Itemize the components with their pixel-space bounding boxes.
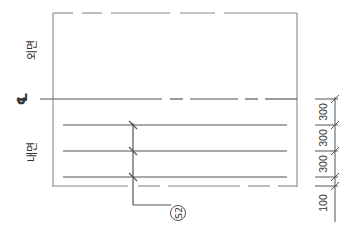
s2-tag: S2 (171, 206, 186, 221)
rebar-lines (63, 125, 287, 177)
s2-label: S2 (173, 207, 184, 219)
dimension-4: 100 (317, 194, 329, 212)
inner-face-label: 내면 (26, 142, 39, 162)
dimension-3: 300 (317, 155, 329, 173)
dimension-2: 300 (317, 129, 329, 147)
dimension-1: 300 (317, 103, 329, 121)
section-diagram: S2 외면 내면 ℄ 300 300 300 100 (0, 0, 357, 235)
outer-face-label: 외면 (26, 40, 39, 60)
leader-line (129, 121, 171, 205)
centerline-symbol: ℄ (14, 93, 30, 106)
